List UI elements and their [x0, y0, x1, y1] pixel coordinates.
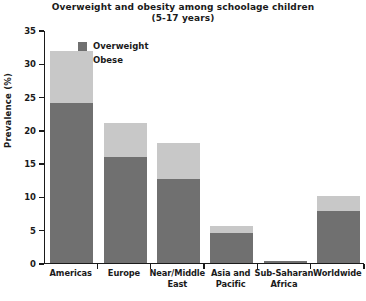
- y-tick-mark: [39, 163, 44, 164]
- y-axis-label: Prevalence (%): [3, 73, 13, 148]
- y-tick-mark: [39, 230, 44, 231]
- bar-group: [264, 261, 307, 263]
- legend-label-obese: Obese: [93, 55, 123, 65]
- bar-segment-overweight: [157, 179, 200, 262]
- bar-segment-overweight: [317, 211, 360, 263]
- bar-segment-overweight: [50, 103, 93, 263]
- y-tick-mark: [39, 263, 44, 264]
- bar-segment-obese: [104, 123, 147, 158]
- y-tick-mark: [39, 197, 44, 198]
- bar-segment-overweight: [264, 261, 307, 263]
- x-axis-category-labels: AmericasEuropeNear/MiddleEastAsia andPac…: [44, 268, 364, 301]
- bar-group: [50, 51, 93, 263]
- x-category-label-line: Pacific: [200, 279, 261, 290]
- x-category-label: Near/MiddleEast: [147, 268, 208, 289]
- x-category-label-line: Americas: [40, 268, 101, 279]
- x-category-label-line: Worldwide: [307, 268, 366, 279]
- chart-container: Overweight and obesity among schoolage c…: [0, 0, 366, 301]
- y-tick-label: 25: [24, 93, 36, 103]
- bar-segment-overweight: [104, 157, 147, 262]
- chart-legend: Overweight Obese: [78, 41, 148, 69]
- y-tick-label: 35: [24, 26, 36, 36]
- chart-title-main: Overweight and obesity among schoolage c…: [0, 2, 366, 13]
- x-category-label: Asia andPacific: [200, 268, 261, 289]
- legend-item-obese: Obese: [78, 55, 148, 65]
- y-tick-mark: [39, 30, 44, 31]
- y-tick-mark: [39, 130, 44, 131]
- y-tick-mark: [39, 97, 44, 98]
- x-category-label: Americas: [40, 268, 101, 279]
- bar-segment-obese: [210, 226, 253, 233]
- x-category-label-line: Asia and: [200, 268, 261, 279]
- bar-segment-obese: [157, 143, 200, 180]
- bar-group: [210, 226, 253, 263]
- chart-title-subtitle: (5-17 years): [0, 13, 366, 24]
- x-category-label: Worldwide: [307, 268, 366, 279]
- y-tick-label: 30: [24, 59, 36, 69]
- x-category-label-line: Near/Middle: [147, 268, 208, 279]
- bar-group: [157, 143, 200, 263]
- x-category-label-line: Europe: [93, 268, 154, 279]
- y-tick-label: 5: [30, 226, 36, 236]
- bar-group: [104, 123, 147, 263]
- bar-segment-overweight: [210, 233, 253, 263]
- y-tick-label: 0: [30, 259, 36, 269]
- y-tick-label: 15: [24, 159, 36, 169]
- legend-label-overweight: Overweight: [93, 41, 148, 51]
- y-tick-label: 20: [24, 126, 36, 136]
- legend-swatch-overweight: [78, 42, 87, 51]
- y-tick-label: 10: [24, 192, 36, 202]
- legend-swatch-obese: [78, 56, 87, 65]
- x-category-label: Europe: [93, 268, 154, 279]
- bar-group: [317, 196, 360, 263]
- bar-segment-obese: [317, 196, 360, 211]
- x-category-label-line: East: [147, 279, 208, 290]
- x-category-label-line: Africa: [253, 279, 314, 290]
- x-category-label: Sub-SaharanAfrica: [253, 268, 314, 289]
- x-category-label-line: Sub-Saharan: [253, 268, 314, 279]
- legend-item-overweight: Overweight: [78, 41, 148, 51]
- chart-title: Overweight and obesity among schoolage c…: [0, 2, 366, 24]
- y-tick-mark: [39, 64, 44, 65]
